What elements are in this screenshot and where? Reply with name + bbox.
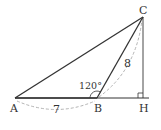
triangle-diagram: A B H C 120° 7 8 [0,0,161,130]
label-side-bc: 8 [124,57,131,70]
label-side-ab: 7 [53,103,60,116]
label-b: B [94,102,102,115]
label-angle-b: 120° [79,80,102,91]
label-h: H [139,102,149,115]
right-angle-mark [138,93,143,98]
label-a: A [9,102,19,115]
side-bc [97,17,143,98]
label-c: C [139,4,147,17]
